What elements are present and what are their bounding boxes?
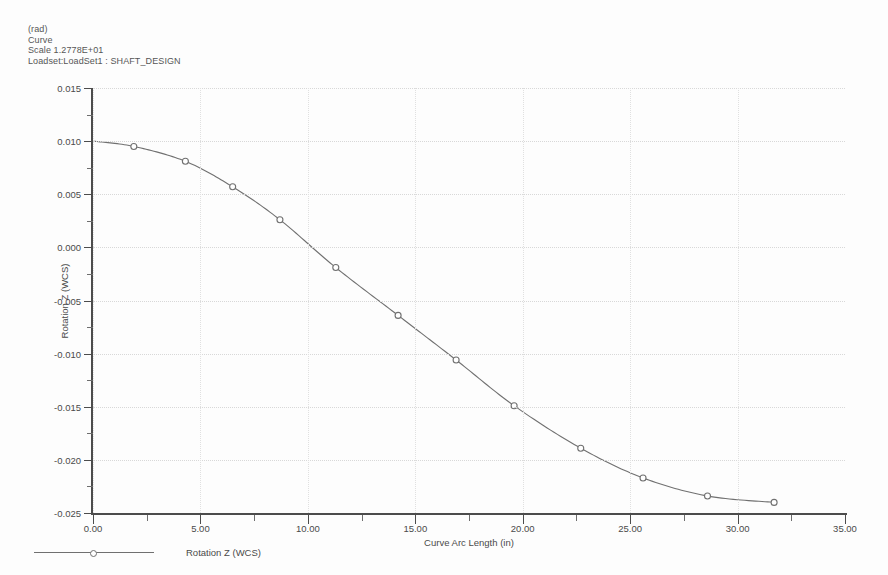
header-plot-type: Curve [28, 35, 181, 46]
y-axis-tick [84, 354, 93, 355]
y-axis-tick [84, 141, 93, 142]
x-axis-tick-label: 10.00 [296, 523, 320, 534]
gridline-vertical [308, 88, 310, 513]
gridline-vertical [415, 88, 417, 513]
y-axis-tick [84, 460, 93, 461]
y-axis-minor-tick [87, 380, 93, 381]
data-point-marker [771, 499, 777, 505]
gridline-vertical [200, 88, 202, 513]
x-axis-tick-label: 0.00 [84, 523, 103, 534]
y-axis-tick-label: 0.005 [57, 189, 81, 200]
x-axis-tick-label: 35.00 [833, 523, 857, 534]
y-axis-minor-tick [87, 115, 93, 116]
x-axis-tick-label: 25.00 [618, 523, 642, 534]
y-axis-minor-tick [87, 274, 93, 275]
y-axis-minor-tick [87, 327, 93, 328]
gridline-horizontal [93, 141, 845, 143]
data-point-marker [182, 158, 188, 164]
x-axis-tick-label: 30.00 [726, 523, 750, 534]
chart-plot-area [93, 88, 845, 513]
x-axis-tick-label: 5.00 [191, 523, 210, 534]
y-axis-minor-tick [87, 433, 93, 434]
header-loadset: Loadset:LoadSet1 : SHAFT_DESIGN [28, 56, 181, 67]
circle-marker-icon [90, 550, 97, 557]
gridline-vertical [523, 88, 525, 513]
data-point-marker [277, 217, 283, 223]
header-scale: Scale 1.2778E+01 [28, 45, 181, 56]
y-axis-title: Rotation Z (WCS) [59, 263, 70, 338]
plot-header: (rad) Curve Scale 1.2778E+01 Loadset:Loa… [28, 24, 181, 66]
chart-plot-frame: 0.0150.0100.0050.000-0.005-0.010-0.015-0… [93, 88, 845, 513]
y-axis-tick [84, 407, 93, 408]
y-axis-minor-tick [87, 486, 93, 487]
x-axis-tick-label: 20.00 [511, 523, 535, 534]
data-point-marker [640, 475, 646, 481]
gridline-horizontal [93, 460, 845, 462]
y-axis-tick [84, 513, 93, 514]
gridline-vertical [93, 88, 95, 513]
gridline-horizontal [93, 301, 845, 303]
y-axis-tick [84, 194, 93, 195]
gridline-horizontal [93, 247, 845, 249]
chart-legend: Rotation Z (WCS) [34, 546, 261, 558]
data-point-marker [230, 184, 236, 190]
x-axis-minor-tick [254, 515, 255, 521]
x-axis-minor-tick [791, 515, 792, 521]
header-units: (rad) [28, 24, 181, 35]
y-axis-tick-label: 0.015 [57, 83, 81, 94]
data-point-marker [453, 357, 459, 363]
y-axis-minor-tick [87, 221, 93, 222]
y-axis-tick-label: -0.015 [54, 401, 81, 412]
y-axis-tick-label: -0.010 [54, 348, 81, 359]
gridline-horizontal [93, 407, 845, 409]
y-axis-tick [84, 88, 93, 89]
gridline-vertical [630, 88, 632, 513]
gridline-horizontal [93, 194, 845, 196]
data-point-marker [333, 265, 339, 271]
x-axis-minor-tick [576, 515, 577, 521]
y-axis-tick [84, 301, 93, 302]
data-point-marker [395, 312, 401, 318]
x-axis-title: Curve Arc Length (in) [424, 537, 514, 548]
y-axis-tick-label: -0.020 [54, 454, 81, 465]
data-point-marker [704, 493, 710, 499]
y-axis-tick-label: -0.025 [54, 508, 81, 519]
data-point-marker [578, 445, 584, 451]
x-axis-minor-tick [469, 515, 470, 521]
legend-swatch [34, 546, 154, 558]
x-axis-tick-label: 15.00 [403, 523, 427, 534]
y-axis-tick-label: 0.010 [57, 136, 81, 147]
x-axis-minor-tick [684, 515, 685, 521]
gridline-horizontal [93, 354, 845, 356]
y-axis-tick [84, 247, 93, 248]
y-axis-minor-tick [87, 168, 93, 169]
x-axis-minor-tick [362, 515, 363, 521]
gridline-vertical [738, 88, 740, 513]
data-point-marker [131, 143, 137, 149]
x-axis-minor-tick [147, 515, 148, 521]
gridline-horizontal [93, 88, 845, 90]
y-axis-tick-label: 0.000 [57, 242, 81, 253]
legend-entry-label: Rotation Z (WCS) [186, 547, 261, 558]
